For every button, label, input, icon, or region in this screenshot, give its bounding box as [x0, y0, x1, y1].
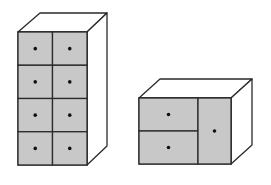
knob-icon: [68, 80, 72, 84]
knob-icon: [167, 146, 171, 150]
tall-cabinet-side: [87, 13, 107, 165]
tall-cabinet: [18, 13, 107, 165]
short-cabinet: [139, 79, 252, 164]
knob-icon: [33, 147, 37, 151]
knob-icon: [33, 47, 37, 51]
cabinets-diagram: [0, 0, 271, 185]
knob-icon: [68, 147, 72, 151]
knob-icon: [33, 80, 37, 84]
knob-icon: [213, 129, 217, 133]
knob-icon: [167, 113, 171, 117]
knob-icon: [68, 113, 72, 117]
knob-icon: [33, 113, 37, 117]
knob-icon: [68, 47, 72, 51]
